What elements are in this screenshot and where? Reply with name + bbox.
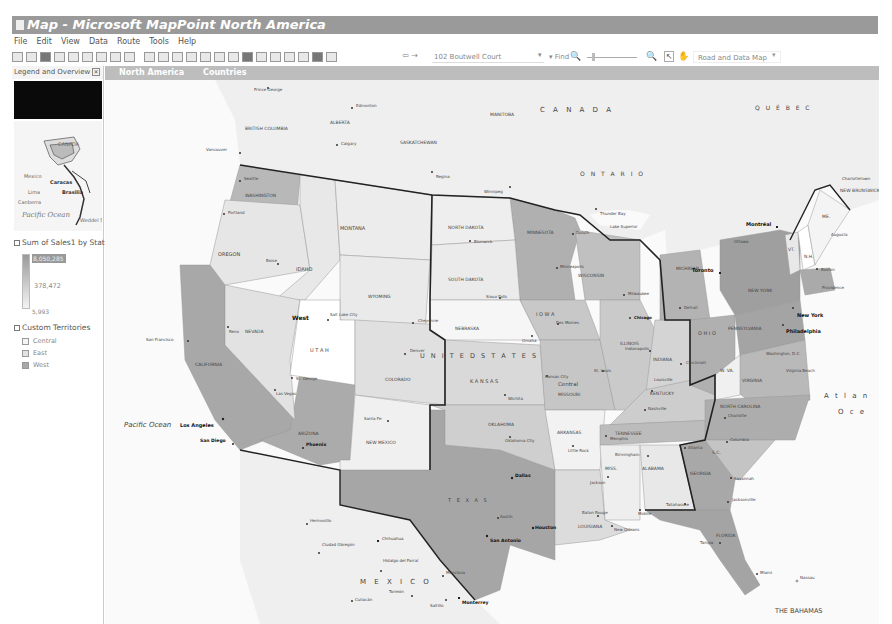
- radius-icon[interactable]: [270, 52, 281, 62]
- legend-toggle-icon[interactable]: [144, 52, 155, 62]
- svg-text:Ciudad Obregón: Ciudad Obregón: [322, 542, 355, 547]
- svg-text:Winnipeg: Winnipeg: [484, 189, 503, 194]
- location-sensor-icon[interactable]: [312, 52, 323, 62]
- open-icon[interactable]: [26, 52, 37, 62]
- svg-text:Boise: Boise: [266, 258, 277, 263]
- svg-text:WASHINGTON: WASHINGTON: [245, 193, 276, 198]
- collapse-icon[interactable]: [14, 325, 20, 331]
- label-new-brunswick: NEW BRUNSWICK: [840, 188, 879, 193]
- drawing-toolbar-icon[interactable]: [158, 52, 169, 62]
- menu-edit[interactable]: Edit: [36, 36, 52, 48]
- svg-text:Nashville: Nashville: [648, 406, 667, 411]
- address-dropdown-icon[interactable]: ▾: [538, 51, 542, 59]
- overview-map[interactable]: CANADA Mexico Caracas Brasilia Lima Canb…: [14, 121, 102, 231]
- svg-text:New York: New York: [797, 312, 824, 318]
- copy-icon[interactable]: [96, 52, 107, 62]
- address-input[interactable]: 102 Boutwell Court: [432, 51, 544, 63]
- new-icon[interactable]: [12, 52, 23, 62]
- svg-text:St. George: St. George: [296, 376, 318, 381]
- back-icon[interactable]: ⇦: [402, 51, 409, 60]
- pointer-icon[interactable]: ↖: [664, 51, 674, 62]
- label-bahamas: THE BAHAMAS: [774, 607, 822, 615]
- map-view[interactable]: North America Countries: [105, 66, 879, 624]
- zoom-slider-thumb[interactable]: [592, 53, 595, 61]
- paste-icon[interactable]: [110, 52, 121, 62]
- label-atlantic-1: A t l a n: [824, 392, 869, 400]
- app-icon: [16, 20, 24, 30]
- svg-text:Dallas: Dallas: [515, 473, 531, 478]
- breadcrumb-countries[interactable]: Countries: [203, 68, 246, 77]
- sum-sales-legend-title[interactable]: Sum of Sales1 by State: [14, 238, 109, 247]
- find-nearby-icon[interactable]: [186, 52, 197, 62]
- svg-text:Providence: Providence: [822, 285, 845, 290]
- svg-text:Salt Lake City: Salt Lake City: [330, 312, 358, 317]
- svg-text:San Diego: San Diego: [200, 438, 226, 443]
- svg-text:Detroit: Detroit: [684, 305, 698, 310]
- map-style-select[interactable]: Road and Data Map: [693, 51, 781, 63]
- svg-text:ALABAMA: ALABAMA: [642, 466, 665, 471]
- svg-text:K A N S A S: K A N S A S: [470, 378, 498, 384]
- pushpin-icon[interactable]: [228, 52, 239, 62]
- overview-label-brasilia: Brasilia: [62, 189, 83, 195]
- svg-text:SOUTH DAKOTA: SOUTH DAKOTA: [448, 277, 484, 282]
- breadcrumb-north-america[interactable]: North America: [119, 68, 184, 77]
- menu-view[interactable]: View: [61, 36, 80, 48]
- overview-label-caracas: Caracas: [50, 179, 72, 185]
- menu-file[interactable]: File: [14, 36, 27, 48]
- forward-icon[interactable]: →: [411, 51, 418, 60]
- label-central-territory: Central: [558, 381, 578, 387]
- overview-label-mexico: Mexico: [24, 173, 41, 179]
- close-icon[interactable]: ✕: [92, 68, 100, 76]
- overview-label-pacific: Pacific Ocean: [22, 211, 70, 219]
- custom-territories-legend-title[interactable]: Custom Territories: [14, 323, 90, 332]
- svg-text:Virginia Beach: Virginia Beach: [786, 368, 815, 373]
- svg-text:N.H.: N.H.: [804, 254, 814, 259]
- svg-text:Torreón: Torreón: [388, 589, 404, 594]
- svg-text:Washington, D.C.: Washington, D.C.: [766, 351, 800, 356]
- svg-text:WYOMING: WYOMING: [368, 294, 391, 299]
- zoom-in-icon[interactable]: 🔍: [646, 51, 657, 61]
- data-mapping-icon[interactable]: [242, 52, 253, 62]
- svg-text:Prince George: Prince George: [254, 87, 283, 92]
- cut-icon[interactable]: [82, 52, 93, 62]
- svg-text:CALIFORNIA: CALIFORNIA: [195, 362, 223, 367]
- menu-data[interactable]: Data: [89, 36, 108, 48]
- svg-text:OKLAHOMA: OKLAHOMA: [488, 422, 515, 427]
- save-icon[interactable]: [40, 52, 51, 62]
- route-planner-icon[interactable]: [172, 52, 183, 62]
- svg-text:COLORADO: COLORADO: [385, 377, 411, 382]
- print-preview-icon[interactable]: [68, 52, 79, 62]
- route-icon[interactable]: [214, 52, 225, 62]
- import-data-icon[interactable]: [256, 52, 267, 62]
- territories-icon[interactable]: [200, 52, 211, 62]
- shaded-area-gradient: [22, 254, 30, 309]
- svg-text:Cincinnati: Cincinnati: [686, 360, 706, 365]
- collapse-icon[interactable]: [14, 240, 20, 246]
- menu-tools[interactable]: Tools: [149, 36, 169, 48]
- svg-text:Savannah: Savannah: [734, 476, 754, 481]
- overview-viewport-box[interactable]: [14, 81, 102, 119]
- find-button[interactable]: ▾ Find: [549, 51, 569, 63]
- highlight-icon[interactable]: [298, 52, 309, 62]
- print-icon[interactable]: [54, 52, 65, 62]
- help-icon[interactable]: [326, 52, 337, 62]
- zoom-out-icon[interactable]: 🔍: [570, 51, 581, 61]
- legend-pane-header: Legend and Overview ✕: [12, 66, 103, 79]
- label-canada: C A N A D A: [540, 106, 614, 114]
- undo-icon[interactable]: [124, 52, 135, 62]
- svg-text:NEW MEXICO: NEW MEXICO: [366, 440, 396, 445]
- svg-text:GEORGIA: GEORGIA: [690, 471, 712, 476]
- overview-label-lima: Lima: [28, 189, 40, 195]
- svg-text:Chihuahua: Chihuahua: [382, 536, 404, 541]
- svg-text:Culiacán: Culiacán: [355, 597, 373, 602]
- menu-route[interactable]: Route: [117, 36, 140, 48]
- label-manitoba: MANITOBA: [490, 112, 515, 117]
- hand-icon[interactable]: ✋: [678, 51, 689, 61]
- swatch-icon: [22, 350, 29, 357]
- map-style-dropdown-icon[interactable]: ▾: [772, 51, 776, 59]
- svg-text:Miami: Miami: [760, 570, 772, 575]
- drivetime-icon[interactable]: [284, 52, 295, 62]
- svg-text:ARIZONA: ARIZONA: [298, 431, 320, 436]
- menu-help[interactable]: Help: [178, 36, 196, 48]
- svg-text:Seattle: Seattle: [244, 176, 259, 181]
